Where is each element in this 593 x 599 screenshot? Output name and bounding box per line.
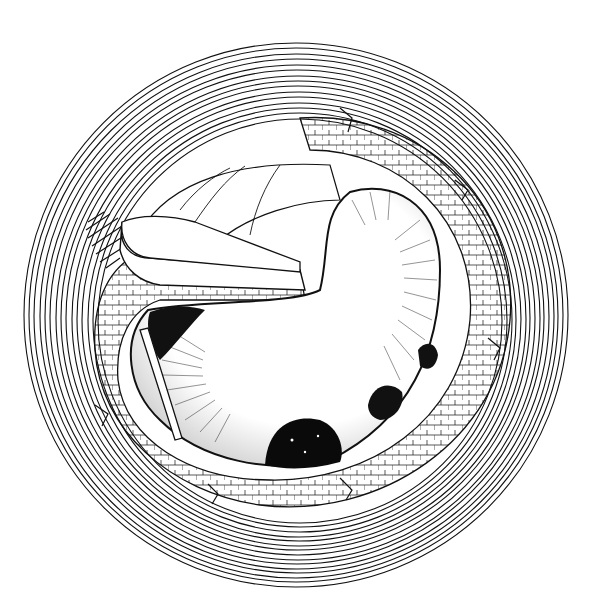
well-drawing [0, 0, 593, 599]
illustration-canvas [0, 0, 593, 599]
